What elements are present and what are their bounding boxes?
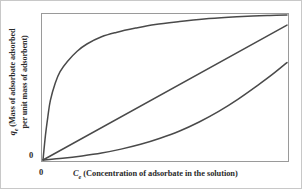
y-axis-label-line1: (Mass of adsorbate adsorbed [8, 29, 17, 127]
curve-unfavorable [43, 63, 287, 160]
y-axis-tick-zero: 0 [29, 150, 33, 160]
plot-frame [42, 14, 289, 162]
x-axis-label: Ce (Concentration of adsorbate in the so… [73, 169, 238, 180]
adsorption-isotherm-figure: qe (Mass of adsorbate adsorbed per unit … [0, 0, 302, 189]
y-axis-symbol-subscript: e [12, 129, 19, 132]
plot-area [41, 13, 289, 162]
x-axis-tick-zero: 0 [39, 167, 43, 177]
y-axis-symbol: q [8, 131, 17, 135]
curve-linear [43, 25, 287, 160]
curve-favorable [43, 15, 287, 160]
y-axis-label-line2: per unit mass of adsorbent) [20, 29, 30, 136]
x-axis-symbol-subscript: e [79, 173, 82, 180]
isotherm-curves-svg [41, 13, 289, 162]
x-axis-label-text: (Concentration of adsorbate in the solut… [83, 169, 237, 178]
y-axis-label: qe (Mass of adsorbate adsorbed per unit … [1, 1, 37, 163]
curves-group [43, 15, 287, 160]
